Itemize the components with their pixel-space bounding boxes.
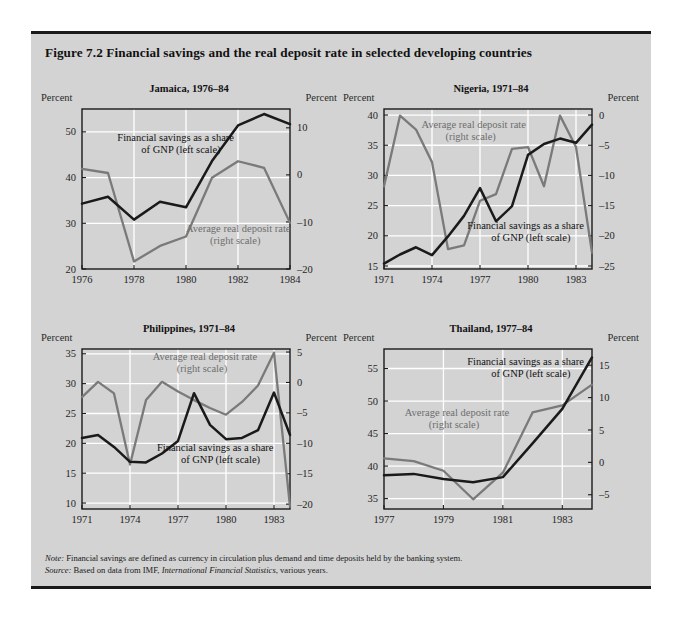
annotation-financial-savings: Financial savings as a shareof GNP (left… [117,132,234,156]
axis-unit-left-thailand: Percent [343,332,375,343]
ytick-left-label: 25 [66,408,77,419]
ytick-right-label: 5 [599,425,604,436]
axis-unit-right-nigeria: Percent [608,92,640,103]
xtick-label: 1982 [228,274,249,285]
ytick-left-label: 45 [368,428,379,439]
ytick-right-label: –15 [296,468,313,479]
chart-philippines: Philippines, 1971–84 PercentPercent10152… [39,323,339,543]
xtick-label: 1977 [374,514,395,525]
ytick-left-label: 20 [66,438,77,449]
annotation-deposit-rate: Average real deposit rate(right scale) [405,407,510,431]
axis-unit-right-philippines: Percent [306,332,338,343]
ytick-right-label: –10 [598,170,615,181]
ytick-left-label: 50 [368,396,379,407]
ytick-right-label: 0 [297,377,302,388]
panel-top-rule [31,31,651,34]
ytick-left-label: 15 [66,468,77,479]
ytick-left-label: 20 [66,264,77,275]
axis-unit-left-jamaica: Percent [41,92,73,103]
ytick-right-label: 0 [599,457,604,468]
ytick-right-label: 10 [599,392,610,403]
figure-title: Figure 7.2 Financial savings and the rea… [45,45,532,61]
series-line-deposit-rate [384,385,592,500]
xtick-label: 1983 [566,274,587,285]
footnote-note: Note: Financial savings are defined as c… [45,553,639,564]
ytick-right-label: –5 [598,140,610,151]
ytick-right-label: –5 [598,489,610,500]
ytick-left-label: 55 [368,363,379,374]
ytick-right-label: 5 [297,347,302,358]
axis-unit-left-nigeria: Percent [343,92,375,103]
annotation-deposit-rate: Average real deposit rate(right scale) [421,119,526,143]
note-lead: Note: [45,553,64,563]
annotation-deposit-rate: Average real deposit rate(right scale) [186,223,291,247]
ytick-left-label: 10 [66,498,77,509]
chart-svg-jamaica: PercentPercent20304050–20–10010197619781… [39,83,339,303]
ytick-left-label: 40 [368,461,379,472]
axis-unit-right-jamaica: Percent [306,92,338,103]
ytick-left-label: 30 [66,378,77,389]
source-pre: Based on data from IMF, [71,565,161,575]
chart-jamaica: Jamaica, 1976–84 PercentPercent20304050–… [39,83,339,303]
annotation-financial-savings: Financial savings as a shareof GNP (left… [157,442,274,466]
ytick-right-label: –15 [598,200,615,211]
xtick-label: 1981 [492,514,513,525]
chart-svg-thailand: PercentPercent3540455055–505101519771979… [341,323,641,543]
figure-panel: Figure 7.2 Financial savings and the rea… [31,31,651,589]
ytick-left-label: 20 [368,230,379,241]
ytick-left-label: 30 [368,170,379,181]
ytick-right-label: –20 [598,230,615,241]
note-text: Financial savings are defined as currenc… [64,553,462,563]
xtick-label: 1983 [552,514,573,525]
xtick-label: 1983 [264,514,285,525]
ytick-left-label: 35 [66,348,77,359]
source-italic: International Financial Statistics [162,565,276,575]
ytick-right-label: –10 [296,217,313,228]
ytick-right-label: –20 [296,499,313,510]
ytick-right-label: –5 [296,407,308,418]
xtick-label: 1979 [433,514,454,525]
ytick-left-label: 35 [368,140,379,151]
ytick-left-label: 30 [66,218,77,229]
chart-thailand: Thailand, 1977–84 PercentPercent35404550… [341,323,641,543]
xtick-label: 1980 [176,274,197,285]
ytick-left-label: 40 [368,110,379,121]
axis-unit-left-philippines: Percent [41,332,73,343]
axis-unit-right-thailand: Percent [608,332,640,343]
xtick-label: 1974 [120,514,142,525]
ytick-right-label: 10 [297,122,308,133]
ytick-right-label: –25 [598,261,615,272]
annotation-financial-savings: Financial savings as a shareof GNP (left… [467,220,584,244]
ytick-right-label: 15 [599,360,610,371]
chart-svg-nigeria: PercentPercent152025303540–25–20–15–10–5… [341,83,641,303]
panel-bottom-rule [31,586,651,589]
xtick-label: 1980 [216,514,237,525]
footnotes: Note: Financial savings are defined as c… [45,553,639,576]
footnote-source: Source: Based on data from IMF, Internat… [45,565,639,576]
ytick-left-label: 40 [66,172,77,183]
ytick-left-label: 25 [368,200,379,211]
ytick-right-label: 0 [599,110,604,121]
xtick-label: 1977 [470,274,491,285]
ytick-right-label: –10 [296,438,313,449]
xtick-label: 1976 [72,274,93,285]
xtick-label: 1977 [168,514,189,525]
annotation-deposit-rate: Average real deposit rate(right scale) [153,351,258,375]
source-post: , various years. [276,565,328,575]
xtick-label: 1978 [124,274,145,285]
ytick-left-label: 50 [66,126,77,137]
xtick-label: 1980 [518,274,539,285]
xtick-label: 1971 [374,274,395,285]
chart-nigeria: Nigeria, 1971–84 PercentPercent152025303… [341,83,641,303]
ytick-right-label: –20 [296,264,313,275]
xtick-label: 1984 [280,274,302,285]
source-lead: Source: [45,565,71,575]
xtick-label: 1974 [422,274,444,285]
ytick-right-label: 0 [297,169,302,180]
chart-svg-philippines: PercentPercent101520253035–20–15–10–5051… [39,323,339,543]
ytick-left-label: 15 [368,261,379,272]
ytick-left-label: 35 [368,493,379,504]
xtick-label: 1971 [72,514,93,525]
